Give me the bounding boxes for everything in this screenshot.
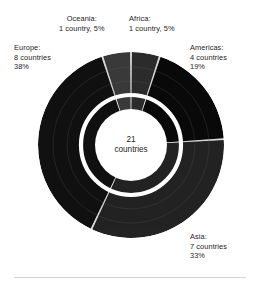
slice-label-oceania-detail: 1 country, 5% (59, 24, 105, 34)
slice-label-africa-detail: 1 country, 5% (129, 24, 175, 34)
slice-label-asia-count: 7 countries (190, 242, 227, 252)
slice-label-asia-percent: 33% (190, 251, 227, 261)
donut-center-hole (95, 109, 167, 181)
slice-label-oceania: Oceania: 1 country, 5% (59, 14, 105, 33)
slice-label-africa: Africa: 1 country, 5% (129, 14, 175, 33)
donut-plot-area: Africa: 1 country, 5%Americas: 4 countri… (37, 50, 225, 240)
slice-label-oceania-title: Oceania: (59, 14, 105, 24)
donut-chart-figure: Oceania: 1 country, 5% Africa: 1 country… (0, 0, 256, 288)
slice-label-africa-title: Africa: (129, 14, 175, 24)
footer-divider (14, 277, 246, 278)
donut-svg: Africa: 1 country, 5%Americas: 4 countri… (37, 50, 225, 240)
